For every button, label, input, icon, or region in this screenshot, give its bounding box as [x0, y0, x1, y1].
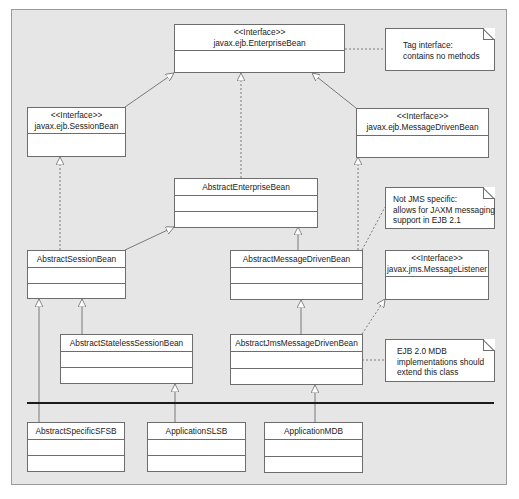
class-name: AbstractSessionBean	[28, 254, 125, 265]
class-body	[357, 136, 488, 157]
class-name: AbstractMessageDrivenBean	[231, 254, 362, 265]
class-name: AbstractJmsMessageDrivenBean	[231, 338, 362, 349]
class-name: ApplicationMDB	[265, 426, 362, 437]
class-message-listener[interactable]: <<Interface>> javax.jms.MessageListener	[385, 250, 489, 300]
note-line: allows for JAXM messaging	[393, 205, 484, 216]
class-name: ApplicationSLSB	[148, 426, 245, 437]
attributes-section	[175, 196, 317, 212]
realization-ajmdb-listener	[362, 299, 385, 334]
class-name: AbstractSpecificSFSB	[28, 426, 124, 437]
class-name: javax.ejb.EnterpriseBean	[175, 38, 344, 49]
class-abstract-specific-sfsb[interactable]: AbstractSpecificSFSB	[27, 422, 125, 472]
class-abstract-jms-message-driven-bean[interactable]: AbstractJmsMessageDrivenBean	[230, 334, 363, 385]
operations-section	[28, 284, 125, 299]
class-name: javax.jms.MessageListener	[386, 264, 488, 275]
class-name: AbstractStatelessSessionBean	[61, 338, 192, 349]
generalization-asb-aeb	[125, 227, 174, 250]
stereotype-label: <<Interface>>	[357, 111, 488, 122]
note-line: implementations should	[397, 357, 484, 368]
generalization-sessionbean-enterprisebean	[125, 73, 174, 107]
generalization-mdb-enterprisebean	[312, 73, 356, 108]
operations-section	[231, 284, 362, 299]
stereotype-label: <<Interface>>	[175, 27, 344, 38]
operations-section	[175, 212, 317, 227]
note-line: contains no methods	[403, 51, 484, 62]
class-body	[386, 277, 488, 299]
class-name: javax.ejb.SessionBean	[28, 121, 125, 132]
stereotype-label: <<Interface>>	[28, 110, 125, 121]
stereotype-label: <<Interface>>	[386, 253, 488, 264]
note-line: Tag interface:	[403, 40, 484, 51]
class-message-driven-bean[interactable]: <<Interface>> javax.ejb.MessageDrivenBea…	[356, 108, 489, 158]
class-name: AbstractEnterpriseBean	[175, 182, 317, 193]
note-ejb20-mdb[interactable]: EJB 2.0 MDB implementations should exten…	[385, 339, 495, 382]
class-abstract-message-driven-bean[interactable]: AbstractMessageDrivenBean	[230, 250, 363, 300]
attributes-section	[231, 268, 362, 284]
note-fold-icon	[483, 28, 495, 40]
operations-section	[231, 369, 362, 385]
class-enterprise-bean[interactable]: <<Interface>> javax.ejb.EnterpriseBean	[174, 24, 345, 73]
note-line: EJB 2.0 MDB	[397, 346, 484, 357]
class-session-bean[interactable]: <<Interface>> javax.ejb.SessionBean	[27, 107, 126, 157]
attributes-section	[28, 440, 124, 456]
class-name: javax.ejb.MessageDrivenBean	[357, 122, 488, 133]
class-application-mdb[interactable]: ApplicationMDB	[264, 422, 363, 473]
attributes-section	[61, 352, 192, 368]
note-line: Not JMS specific:	[393, 194, 484, 205]
attributes-section	[231, 352, 362, 369]
note-tag-interface[interactable]: Tag interface: contains no methods	[385, 28, 495, 71]
operations-section	[61, 368, 192, 383]
attributes-section	[265, 440, 362, 457]
attributes-section	[148, 440, 245, 456]
note-not-jms-specific[interactable]: Not JMS specific: allows for JAXM messag…	[385, 187, 495, 229]
class-application-slsb[interactable]: ApplicationSLSB	[147, 422, 246, 472]
note-line: support in EJB 2.1	[393, 215, 484, 226]
attributes-section	[28, 268, 125, 284]
class-abstract-enterprise-bean[interactable]: AbstractEnterpriseBean	[174, 178, 318, 228]
operations-section	[148, 456, 245, 471]
note-link-jms	[362, 207, 385, 250]
operations-section	[28, 456, 124, 471]
class-abstract-stateless-session-bean[interactable]: AbstractStatelessSessionBean	[60, 334, 193, 384]
note-line: extend this class	[397, 367, 484, 378]
layer-separator	[27, 402, 494, 404]
class-body	[175, 51, 344, 72]
note-fold-icon	[483, 187, 495, 199]
note-fold-icon	[483, 339, 495, 351]
operations-section	[265, 457, 362, 473]
class-abstract-session-bean[interactable]: AbstractSessionBean	[27, 250, 126, 299]
class-body	[28, 134, 125, 156]
